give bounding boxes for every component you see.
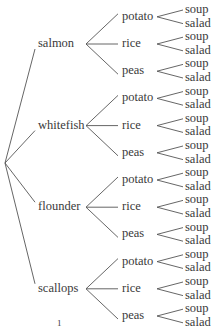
- leaf-soup: soup: [185, 193, 209, 206]
- node-potato: potato: [122, 91, 153, 104]
- node-potato: potato: [122, 255, 153, 268]
- leaf-soup: soup: [185, 166, 209, 179]
- leaf-soup: soup: [185, 248, 209, 261]
- node-potato: potato: [122, 173, 153, 186]
- tree-lines: [0, 0, 212, 330]
- leaf-salad: salad: [185, 207, 211, 220]
- leaf-soup: soup: [185, 112, 209, 125]
- leaf-salad: salad: [185, 261, 211, 274]
- leaf-soup: soup: [185, 30, 209, 43]
- node-rice: rice: [122, 282, 141, 295]
- footer-mark: 1: [57, 317, 62, 330]
- node-peas: peas: [122, 227, 144, 240]
- leaf-salad: salad: [185, 316, 211, 329]
- leaf-salad: salad: [185, 234, 211, 247]
- node-peas: peas: [122, 309, 144, 322]
- leaf-salad: salad: [185, 17, 211, 30]
- leaf-salad: salad: [185, 153, 211, 166]
- node-potato: potato: [122, 10, 153, 23]
- leaf-salad: salad: [185, 289, 211, 302]
- leaf-soup: soup: [185, 3, 209, 16]
- leaf-soup: soup: [185, 57, 209, 70]
- node-whitefish: whitefish: [38, 119, 85, 132]
- node-salmon: salmon: [38, 37, 74, 50]
- node-rice: rice: [122, 119, 141, 132]
- leaf-salad: salad: [185, 98, 211, 111]
- node-flounder: flounder: [38, 200, 80, 213]
- node-rice: rice: [122, 200, 141, 213]
- node-scallops: scallops: [38, 282, 78, 295]
- leaf-soup: soup: [185, 139, 209, 152]
- leaf-soup: soup: [185, 221, 209, 234]
- leaf-salad: salad: [185, 71, 211, 84]
- leaf-salad: salad: [185, 180, 211, 193]
- leaf-salad: salad: [185, 125, 211, 138]
- node-peas: peas: [122, 64, 144, 77]
- node-peas: peas: [122, 146, 144, 159]
- leaf-soup: soup: [185, 302, 209, 315]
- node-rice: rice: [122, 37, 141, 50]
- leaf-salad: salad: [185, 44, 211, 57]
- leaf-soup: soup: [185, 275, 209, 288]
- leaf-soup: soup: [185, 85, 209, 98]
